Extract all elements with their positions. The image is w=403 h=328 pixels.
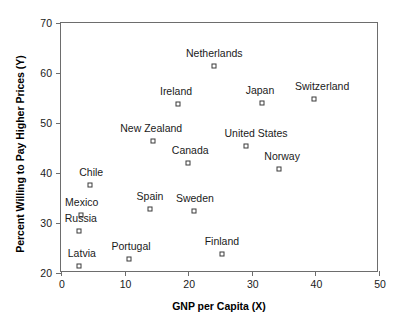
x-axis-tick-label: 0 [59, 278, 65, 290]
plot-area: 203040506070 01020304050 NetherlandsSwit… [60, 22, 378, 272]
y-axis-tick-label: 60 [40, 67, 52, 79]
scatter-chart-figure: 203040506070 01020304050 NetherlandsSwit… [0, 0, 403, 328]
data-point-marker[interactable] [176, 102, 181, 107]
x-axis-title: GNP per Capita (X) [60, 300, 378, 312]
data-point-marker[interactable] [76, 229, 81, 234]
y-axis-tick: 40 [56, 173, 61, 174]
data-point-marker[interactable] [151, 139, 156, 144]
x-axis-tick-label: 40 [311, 278, 323, 290]
data-point-marker[interactable] [219, 251, 224, 256]
data-point-marker[interactable] [127, 256, 132, 261]
y-axis-title: Percent Willing to Pay Higher Prices (Y) [14, 29, 28, 279]
data-point-label: Mexico [65, 196, 98, 208]
x-axis-tick-label: 30 [247, 278, 259, 290]
data-point-label: Russia [65, 212, 97, 224]
x-axis-tick: 20 [188, 271, 189, 276]
data-point-marker[interactable] [312, 97, 317, 102]
x-axis-tick-label: 10 [120, 278, 132, 290]
data-point-label: Sweden [176, 192, 214, 204]
data-point-label: Netherlands [186, 47, 243, 59]
data-point-label: Japan [246, 84, 275, 96]
y-axis-tick: 70 [56, 23, 61, 24]
data-point-label: Spain [137, 190, 164, 202]
y-axis-tick: 60 [56, 73, 61, 74]
y-axis-tick: 30 [56, 223, 61, 224]
data-point-marker[interactable] [277, 167, 282, 172]
data-point-label: Canada [172, 144, 209, 156]
y-axis-tick-label: 20 [40, 267, 52, 279]
data-point-label: Finland [205, 235, 239, 247]
data-point-label: New Zealand [120, 122, 182, 134]
x-axis-tick-label: 50 [374, 278, 386, 290]
x-axis-tick: 0 [61, 271, 62, 276]
data-point-label: Ireland [160, 85, 192, 97]
data-point-label: Latvia [68, 247, 96, 259]
x-axis-tick: 10 [125, 271, 126, 276]
data-point-label: Chile [79, 166, 103, 178]
data-point-marker[interactable] [186, 161, 191, 166]
data-point-marker[interactable] [212, 64, 217, 69]
data-point-label: Norway [264, 150, 300, 162]
x-axis-tick: 50 [379, 271, 380, 276]
data-point-marker[interactable] [76, 264, 81, 269]
data-point-label: Switzerland [295, 80, 349, 92]
y-axis-tick-label: 70 [40, 17, 52, 29]
x-axis-tick-label: 20 [183, 278, 195, 290]
y-axis-tick-label: 50 [40, 117, 52, 129]
data-point-marker[interactable] [191, 208, 196, 213]
y-axis-tick-label: 40 [40, 167, 52, 179]
data-point-marker[interactable] [88, 183, 93, 188]
data-point-marker[interactable] [259, 101, 264, 106]
y-axis-tick-label: 30 [40, 217, 52, 229]
x-axis-tick: 40 [315, 271, 316, 276]
x-axis-tick: 30 [252, 271, 253, 276]
data-point-label: Portugal [111, 240, 150, 252]
data-point-label: United States [225, 127, 288, 139]
data-point-marker[interactable] [148, 207, 153, 212]
data-point-marker[interactable] [244, 144, 249, 149]
y-axis-tick: 50 [56, 123, 61, 124]
